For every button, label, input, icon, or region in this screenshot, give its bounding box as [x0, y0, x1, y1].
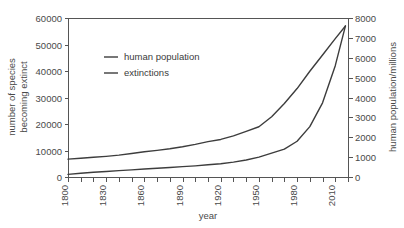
y-right-tick-label: 0: [355, 172, 360, 183]
series-line-human-population: [68, 26, 345, 159]
x-tick-label: 1890: [174, 185, 185, 206]
y-right-tick-label: 8000: [355, 13, 376, 24]
chart-figure: 18001830186018901920195019802010 0100002…: [0, 0, 404, 228]
y-left-tick-label: 0: [57, 172, 62, 183]
x-axis-ticks: [69, 178, 349, 182]
chart-legend: human populationextinctions: [104, 51, 200, 78]
y-axis-left-tick-labels: 0100002000030000400005000060000: [36, 13, 62, 183]
y-right-tick-label: 5000: [355, 73, 376, 84]
y-right-tick-label: 6000: [355, 53, 376, 64]
legend-label: human population: [124, 51, 200, 62]
y-left-tick-label: 40000: [36, 66, 62, 77]
x-tick-label: 1860: [135, 185, 146, 206]
y-left-tick-label: 10000: [36, 146, 62, 157]
x-tick-label: 1830: [97, 185, 108, 206]
legend-label: extinctions: [124, 67, 169, 78]
y-left-tick-label: 50000: [36, 40, 62, 51]
data-series: [68, 26, 345, 174]
y-axis-left-label-line1: number of species: [6, 58, 17, 136]
x-tick-label: 1980: [288, 185, 299, 206]
y-left-tick-label: 60000: [36, 13, 62, 24]
x-axis-label: year: [199, 210, 217, 221]
y-left-tick-label: 20000: [36, 119, 62, 130]
x-tick-label: 1800: [59, 185, 70, 206]
y-right-tick-label: 7000: [355, 33, 376, 44]
series-line-extinctions: [68, 26, 345, 174]
y-axis-left-ticks: [65, 19, 69, 178]
y-axis-right-label: human population/millions: [387, 42, 398, 152]
y-axis-left-label-line2: becoming extinct: [18, 61, 29, 133]
y-axis-right-ticks: [349, 19, 353, 178]
chart-svg: 18001830186018901920195019802010 0100002…: [0, 0, 404, 228]
y-left-tick-label: 30000: [36, 93, 62, 104]
plot-frame: [69, 19, 349, 178]
x-axis-tick-labels: 18001830186018901920195019802010: [59, 185, 337, 206]
x-tick-label: 1950: [250, 185, 261, 206]
y-axis-right-tick-labels: 010002000300040005000600070008000: [355, 13, 376, 183]
y-right-tick-label: 4000: [355, 93, 376, 104]
x-tick-label: 2010: [326, 185, 337, 206]
y-right-tick-label: 1000: [355, 152, 376, 163]
y-right-tick-label: 2000: [355, 132, 376, 143]
x-tick-label: 1920: [212, 185, 223, 206]
y-right-tick-label: 3000: [355, 112, 376, 123]
